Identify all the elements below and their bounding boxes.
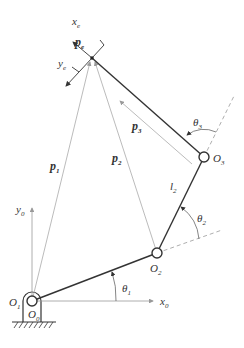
label-theta2: θ2: [197, 212, 206, 227]
label-p2: p2: [111, 151, 122, 167]
label-p-e: pe: [74, 35, 84, 51]
label-x0: x0: [159, 295, 169, 310]
kinematics-diagram: xe pe ye p1 p2 p3 l2 θ1 θ2 θ3 O2 O3 O1 O…: [0, 0, 244, 348]
joint-O3: [199, 152, 209, 162]
vector-p1: [32, 62, 90, 301]
label-O3: O3: [213, 152, 225, 167]
ground-hatch: [12, 322, 56, 328]
vector-p3: [120, 101, 192, 164]
label-y-e: ye: [57, 57, 66, 72]
theta1-arc: [112, 272, 116, 301]
link-3: [92, 58, 204, 157]
joint-O2: [152, 248, 162, 258]
label-theta3: θ3: [193, 116, 202, 131]
label-p1: p1: [49, 159, 60, 175]
label-p3: p3: [131, 119, 142, 135]
theta3-reference-line: [204, 96, 234, 157]
vector-p2: [95, 62, 157, 253]
label-x-e: xe: [71, 15, 80, 30]
link-1: [32, 253, 157, 301]
label-y0: y0: [15, 203, 25, 218]
joint-base: [27, 296, 37, 306]
label-O0: O0: [28, 308, 40, 323]
label-O2: O2: [150, 262, 162, 277]
label-O1: O1: [9, 296, 20, 311]
label-l2: l2: [170, 180, 177, 195]
label-theta1: θ1: [122, 282, 131, 297]
